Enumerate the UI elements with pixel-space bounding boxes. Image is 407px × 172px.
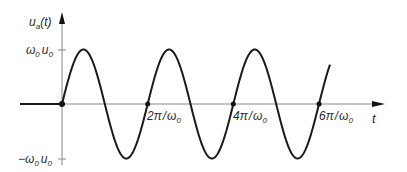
y-axis-label: ua(t): [29, 15, 51, 31]
crossing-dot-2pi: [145, 102, 150, 107]
x-axis-label: t: [372, 111, 377, 126]
crossing-dot-6pi: [317, 102, 322, 107]
crossing-dot-4pi: [231, 102, 236, 107]
x-tick-label-4pi: 4π/ω0: [233, 109, 267, 125]
x-axis-arrow-icon: [372, 101, 385, 107]
y-axis-arrow-icon: [59, 12, 65, 24]
y-tick-label-min: −ω0u0: [18, 152, 53, 168]
origin-dot: [59, 101, 65, 107]
x-tick-label-2pi: 2π/ω0: [146, 109, 181, 125]
y-tick-label-max: ω0u0: [26, 43, 54, 59]
signal-diagram: ua(t) ω0u0 −ω0u0 2π/ω0 4π/ω0 6π/ω0 t: [0, 0, 407, 172]
x-tick-label-6pi: 6π/ω0: [319, 109, 353, 125]
